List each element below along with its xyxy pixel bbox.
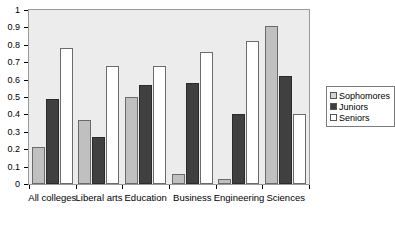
bar-chart: 00.10.20.30.40.50.60.70.80.91 All colleg…: [0, 0, 395, 225]
x-axis-category-label: Business: [173, 192, 212, 203]
bar-sophomores-education: [125, 97, 138, 184]
bar-group: [76, 10, 123, 184]
y-axis-tick-label: 0.5: [7, 93, 20, 102]
x-axis-category-label: Education: [125, 192, 167, 203]
x-axis-category-label: All colleges: [28, 192, 76, 203]
y-axis-tick-label: 0.7: [7, 58, 20, 67]
bar-sophomores-sciences: [265, 26, 278, 184]
chart-legend: SophomoresJuniorsSeniors: [326, 86, 395, 127]
bar-sophomores-liberal-arts: [78, 120, 91, 184]
legend-swatch-sophomores-icon: [330, 92, 337, 99]
legend-swatch-seniors-icon: [330, 114, 337, 121]
bar-group: [122, 10, 169, 184]
x-axis-tick-mark: [216, 185, 217, 189]
bar-group: [216, 10, 263, 184]
y-axis-tick-label: 0.4: [7, 110, 20, 119]
bar-group: [262, 10, 309, 184]
legend-swatch-juniors-icon: [330, 103, 337, 110]
bar-seniors-education: [153, 66, 166, 184]
legend-entry: Sophomores: [330, 90, 390, 101]
legend-label: Juniors: [339, 102, 368, 112]
y-axis-tick-label: 0: [15, 180, 20, 189]
y-axis-tick-label: 0.9: [7, 23, 20, 32]
x-axis-tick-mark: [169, 185, 170, 189]
y-axis-tick-label: 0.2: [7, 145, 20, 154]
bar-sophomores-engineering: [218, 179, 231, 184]
x-axis-category-label: Sciences: [266, 192, 305, 203]
bar-juniors-all-colleges: [46, 99, 59, 184]
bar-juniors-engineering: [232, 114, 245, 184]
x-axis-tick-mark: [122, 185, 123, 189]
y-axis-tick-label: 0.3: [7, 127, 20, 136]
bar-group: [29, 10, 76, 184]
bar-juniors-business: [186, 83, 199, 184]
y-axis-tick-label: 0.1: [7, 162, 20, 171]
legend-label: Seniors: [339, 113, 370, 123]
bar-juniors-liberal-arts: [92, 137, 105, 184]
x-axis-tick-mark: [76, 185, 77, 189]
x-axis: All collegesLiberal artsEducationBusines…: [28, 185, 310, 215]
y-axis-tick-label: 1: [15, 6, 20, 15]
x-axis-category-label: Engineering: [214, 192, 265, 203]
legend-label: Sophomores: [339, 91, 390, 101]
bar-seniors-engineering: [246, 41, 259, 184]
y-axis-tick-label: 0.8: [7, 40, 20, 49]
plot-bars-container: [29, 10, 309, 184]
x-axis-tick-mark: [309, 185, 310, 189]
legend-entry: Juniors: [330, 101, 390, 112]
bar-seniors-sciences: [293, 114, 306, 184]
bar-seniors-all-colleges: [60, 48, 73, 184]
y-axis-tick-label: 0.6: [7, 75, 20, 84]
bar-seniors-liberal-arts: [106, 66, 119, 184]
bar-juniors-sciences: [279, 76, 292, 184]
bar-seniors-business: [200, 52, 213, 184]
bar-group: [169, 10, 216, 184]
legend-entry: Seniors: [330, 112, 390, 123]
bar-sophomores-all-colleges: [32, 147, 45, 184]
bar-juniors-education: [139, 85, 152, 184]
bar-sophomores-business: [172, 174, 185, 184]
plot-area: [28, 9, 310, 185]
x-axis-tick-mark: [262, 185, 263, 189]
x-axis-category-label: Liberal arts: [76, 192, 123, 203]
x-axis-tick-mark: [29, 185, 30, 189]
y-axis: 00.10.20.30.40.50.60.70.80.91: [0, 9, 24, 185]
